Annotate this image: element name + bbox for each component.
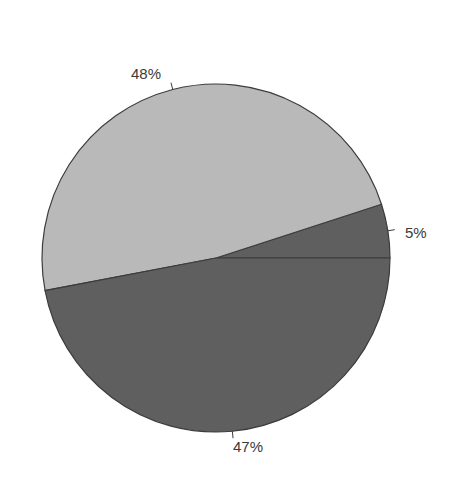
leader-tick (388, 230, 395, 231)
label-slice-47: 47% (233, 439, 263, 454)
label-slice-48: 48% (131, 66, 161, 81)
leader-tick (171, 83, 173, 90)
pie-slices (42, 84, 390, 432)
pie-slice-47pct (45, 258, 390, 432)
label-slice-5: 5% (405, 225, 427, 240)
pie-chart (0, 0, 464, 489)
